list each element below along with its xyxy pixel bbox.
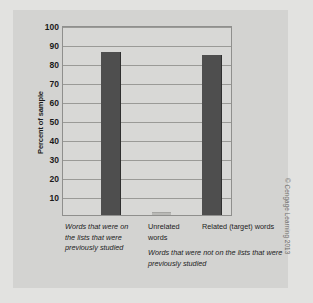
y-axis-tick-label: 70 — [50, 80, 59, 89]
y-axis-tick-label: 100 — [45, 23, 59, 32]
y-axis-tick-label: 80 — [50, 61, 59, 70]
y-axis-tick-label: 40 — [50, 137, 59, 146]
y-axis-tick-label: 60 — [50, 99, 59, 108]
x-axis-label-2: Related (target) words — [202, 222, 282, 233]
y-axis-tick-label: 50 — [50, 118, 59, 127]
gridline — [63, 46, 231, 47]
y-axis-tick-label: 10 — [50, 194, 59, 203]
x-axis-labels: Words that were on the lists that were p… — [62, 222, 286, 286]
x-axis-label-0: Words that were on the lists that were p… — [65, 222, 137, 254]
y-axis-tick-label: 20 — [50, 175, 59, 184]
y-axis-title: Percent of sample — [36, 75, 45, 170]
bar — [202, 55, 222, 215]
y-axis-tick-label: 30 — [50, 156, 59, 165]
plot-area: 102030405060708090100 — [62, 26, 232, 216]
figure-card: Percent of sample 102030405060708090100 … — [13, 10, 288, 288]
bar — [152, 212, 171, 215]
chart-annotation: Words that were not on the lists that we… — [148, 248, 298, 269]
y-axis-tick-label: 90 — [50, 42, 59, 51]
copyright-credit: © Cengage Learning 2013 — [284, 178, 291, 288]
gridline — [63, 27, 231, 28]
x-axis-label-1: Unrelated words — [148, 222, 196, 243]
bar — [101, 52, 121, 215]
